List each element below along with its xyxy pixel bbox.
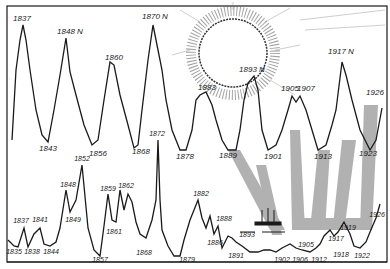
label-aur-1918: 1918 [333,251,349,258]
chart-canvas [0,0,390,269]
label-sun-1913: 1913 [314,153,332,161]
label-sun-1893: 1893 N [239,66,265,74]
label-aur-1859: 1859 [100,185,116,192]
label-sun-1870: 1870 N [142,13,168,21]
label-aur-1848: 1848 [60,181,76,188]
label-aur-1922: 1922 [354,252,370,259]
label-aur-1893: 1893 [239,231,255,238]
label-aur-1891: 1891 [228,252,244,259]
label-sun-1907: 1907 [297,85,315,93]
label-sun-1860: 1860 [105,54,123,62]
label-aur-1919: 1919 [340,224,356,231]
label-sun-1889: 1889 [219,152,237,160]
sunspot-curve [12,25,382,150]
label-aur-1835: 1835 [6,248,22,255]
label-aur-1844: 1844 [43,248,59,255]
label-sun-1926: 1926 [366,89,384,97]
label-sun-1868: 1868 [132,148,150,156]
label-aur-1906: 1906 [292,256,308,263]
label-aur-1849: 1849 [65,216,81,223]
label-aur-1841: 1841 [32,216,48,223]
label-sun-1917: 1917 N [328,48,354,56]
label-sun-1856: 1856 [89,150,107,158]
label-aur-1838: 1838 [24,248,40,255]
label-aur-1861: 1861 [106,228,122,235]
aurora-illustration [228,105,378,235]
label-aur-1837: 1837 [13,217,29,224]
label-aur-1926: 1926 [369,211,385,218]
label-aur-1912: 1912 [311,256,327,263]
label-aur-1917: 1917 [328,235,344,242]
label-sun-1878: 1878 [176,153,194,161]
label-aur-1888: 1888 [216,215,232,222]
label-aur-1902: 1902 [274,256,290,263]
label-aur-1857: 1857 [92,256,108,263]
label-aur-1879: 1879 [179,256,195,263]
label-aur-1882: 1882 [193,190,209,197]
label-aur-1868: 1868 [136,249,152,256]
label-sun-1883: 1883 [198,84,216,92]
label-aur-1886: 1886 [207,239,223,246]
label-sun-1901: 1901 [264,153,282,161]
label-aur-1862: 1862 [118,182,134,189]
label-sun-1843: 1843 [39,145,57,153]
label-sun-1837: 1837 [13,15,31,23]
label-aur-1905: 1905 [298,241,314,248]
label-aur-1852: 1852 [74,155,90,162]
label-sun-1848: 1848 N [57,28,83,36]
label-sun-1923: 1923 [359,150,377,158]
label-aur-1872: 1872 [149,130,165,137]
